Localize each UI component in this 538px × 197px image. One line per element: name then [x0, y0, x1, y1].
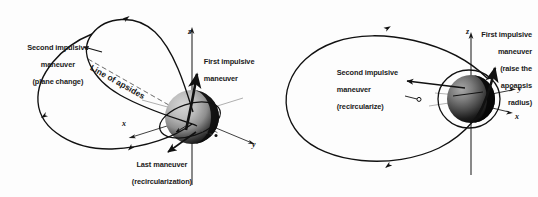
first-maneuver-line1: First impulsive [481, 30, 532, 39]
second-maneuver-label: Second impulsive maneuver (recircularize… [325, 60, 425, 120]
second-maneuver-line2: maneuver [41, 60, 75, 69]
y-axis-label: y [252, 140, 256, 149]
first-maneuver-line5: radius) [508, 98, 532, 107]
first-maneuver-line1: First impulsive [204, 57, 255, 66]
node-dot [215, 134, 218, 137]
orbit-direction-arrow-bottom [385, 162, 392, 168]
z-axis-label: z [466, 27, 469, 36]
left-diagram-panel: Second impulsive maneuver (plane change)… [0, 0, 269, 197]
x-axis-label: x [122, 119, 126, 128]
last-maneuver-line1: Last maneuver [136, 160, 187, 169]
orbital-maneuver-figure: Second impulsive maneuver (plane change)… [0, 0, 538, 197]
first-maneuver-line3: (raise the [500, 64, 532, 73]
orbit-direction-arrow-left [41, 112, 48, 118]
last-maneuver-label: Last maneuver (recircularization) [103, 152, 209, 195]
first-maneuver-label: First impulsive maneuver (raise the apoa… [448, 22, 532, 117]
first-maneuver-line4: apoapsis [501, 81, 532, 90]
first-maneuver-line2: maneuver [498, 47, 532, 56]
y-axis-label: y [518, 84, 522, 93]
z-axis-label: z [188, 27, 191, 36]
first-maneuver-line2: maneuver [204, 74, 238, 83]
second-maneuver-line2: maneuver [337, 85, 371, 94]
orbit-direction-arrow-top [383, 26, 391, 32]
second-maneuver-label: Second impulsive maneuver (plane change) [6, 35, 98, 95]
second-maneuver-line3: (plane change) [32, 77, 83, 86]
second-maneuver-line1: Second impulsive [337, 68, 398, 77]
second-maneuver-line1: Second impulsive [27, 43, 88, 52]
last-maneuver-line2: (recircularization) [132, 177, 192, 186]
first-maneuver-label: First impulsive maneuver [192, 49, 267, 92]
right-diagram-panel: Second impulsive maneuver (recircularize… [269, 0, 538, 197]
second-maneuver-line3: (recircularize) [337, 102, 384, 111]
x-axis-label: x [515, 112, 519, 121]
